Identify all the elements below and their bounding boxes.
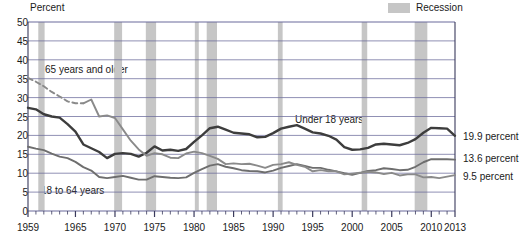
series-line-0 xyxy=(28,108,455,158)
series-line-dashed-2 xyxy=(28,78,83,103)
chart-plot xyxy=(0,0,530,241)
chart-root: Percent Recession 05101520253035404550 1… xyxy=(0,0,530,241)
series-line-2 xyxy=(83,99,455,178)
